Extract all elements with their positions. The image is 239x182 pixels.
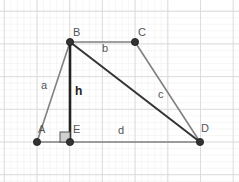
- point-label-b: B: [73, 27, 80, 38]
- point-label-d: D: [201, 123, 209, 134]
- point-c[interactable]: [131, 38, 138, 45]
- point-a[interactable]: [33, 138, 40, 145]
- point-e[interactable]: [66, 138, 73, 145]
- point-d[interactable]: [196, 138, 203, 145]
- point-b[interactable]: [66, 38, 73, 45]
- segment-label-h: h: [75, 85, 82, 97]
- point-label-a: A: [38, 124, 45, 135]
- point-label-c: C: [138, 27, 146, 38]
- segment-label-a: a: [41, 80, 47, 91]
- segment-label-b: b: [102, 43, 108, 54]
- point-label-e: E: [73, 124, 80, 135]
- segment-label-d: d: [118, 125, 124, 136]
- segment-label-c: c: [158, 89, 164, 100]
- grid: [0, 0, 239, 182]
- geometry-canvas[interactable]: [0, 0, 239, 182]
